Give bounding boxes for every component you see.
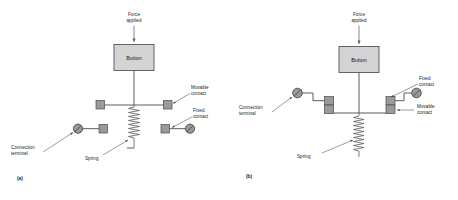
movable-contact-right-b <box>386 105 395 114</box>
force-applied-label-line2: applied <box>126 18 142 23</box>
fixed-contact-label-line2: contact <box>193 114 209 119</box>
movable-contact-right <box>164 101 173 110</box>
connection-terminal-label-line2-b: terminal <box>239 111 256 116</box>
button-label: Button <box>126 55 142 61</box>
spring-label-b: Spring <box>297 154 311 159</box>
panel-tag-b: (b) <box>246 174 253 179</box>
force-applied-label-line1-b: Force <box>353 12 365 17</box>
force-applied-label-line1: Force <box>128 12 140 17</box>
fixed-contact-right-b <box>386 97 395 106</box>
fixed-contact-left-b <box>325 97 334 106</box>
movable-contact-left-b <box>325 105 334 114</box>
movable-contact-label-line1: Movable <box>191 85 209 90</box>
contact-stack-left-b <box>325 97 334 114</box>
fixed-contact-left <box>99 125 108 134</box>
connection-terminal-label-line2: terminal <box>11 151 28 156</box>
movable-contact-label-line1-b: Movable <box>417 104 435 109</box>
movable-contact-label-line2-b: contact <box>417 110 433 115</box>
spring-label: Spring <box>85 156 99 161</box>
fixed-contact-label-line1: Fixed <box>193 108 205 113</box>
panel-tag-a: (a) <box>17 176 23 181</box>
fixed-contact-right <box>161 125 170 134</box>
force-applied-label-line2-b: applied <box>351 18 367 23</box>
fixed-contact-label-line2-b: contact <box>419 82 435 87</box>
connection-terminal-right <box>185 124 194 133</box>
movable-contact-label-line2: contact <box>191 91 207 96</box>
connection-terminal-label-line1-b: Connection <box>239 105 263 110</box>
button-label-b: Button <box>351 57 367 63</box>
connection-terminal-left-b <box>293 88 303 98</box>
switch-diagram-svg: Force applied Button <box>0 0 458 200</box>
figure-root: Force applied Button <box>0 0 458 200</box>
fixed-contact-label-line1-b: Fixed <box>419 76 431 81</box>
connection-terminal-label-line1: Connection <box>11 145 35 150</box>
movable-contact-left <box>96 101 105 110</box>
connection-terminal-right-b <box>412 88 422 98</box>
contact-stack-right-b <box>386 97 395 114</box>
connection-terminal-left <box>73 124 82 133</box>
